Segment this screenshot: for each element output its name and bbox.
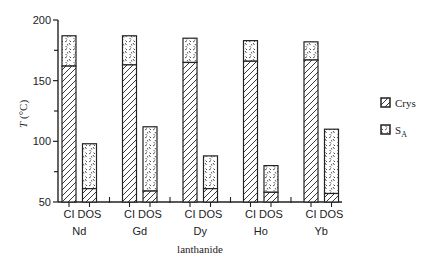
y-tick-label: 200 [33, 14, 51, 26]
crys-segment [244, 61, 258, 202]
subcategory-label: CI [124, 208, 135, 220]
sa-segment [62, 36, 76, 66]
bar-dy-ci [183, 38, 197, 202]
bar-nd-dos [83, 144, 97, 202]
subcategory-label: CI [245, 208, 256, 220]
bar-gd-dos [143, 127, 157, 202]
legend-swatch [381, 125, 390, 134]
subcategory-label: DOS [138, 208, 162, 220]
x-axis: CIDOSNdCIDOSGdCIDOSDyCIDOSHoCIDOSYb [58, 197, 343, 237]
sa-segment [244, 41, 258, 62]
crys-segment [123, 65, 137, 202]
crys-segment [183, 62, 197, 202]
sa-segment [123, 36, 137, 65]
bar-yb-ci [304, 42, 318, 202]
crys-segment [143, 191, 157, 202]
crys-segment [83, 189, 97, 202]
bar-dy-dos [204, 156, 218, 202]
bar-yb-dos [325, 129, 339, 202]
crys-segment [204, 189, 218, 202]
subcategory-label: DOS [259, 208, 283, 220]
sa-segment [325, 129, 339, 193]
crys-segment [62, 66, 76, 202]
sa-segment [83, 144, 97, 189]
subcategory-label: CI [64, 208, 75, 220]
legend-label: SA [395, 124, 407, 139]
bar-gd-ci [123, 36, 137, 202]
group-label: Dy [194, 225, 208, 237]
group-label: Nd [72, 225, 86, 237]
subcategory-label: CI [185, 208, 196, 220]
y-tick-label: 100 [33, 135, 51, 147]
legend: CrysSA [381, 97, 416, 139]
crys-segment [304, 60, 318, 202]
legend-swatch [381, 98, 390, 107]
bar-ho-ci [244, 41, 258, 202]
group-label: Yb [315, 225, 328, 237]
group-label: Ho [254, 225, 268, 237]
subcategory-label: DOS [78, 208, 102, 220]
bar-chart: 50100150200 CIDOSNdCIDOSGdCIDOSDyCIDOSHo… [0, 0, 434, 268]
crys-segment [264, 192, 278, 202]
legend-label: Crys [395, 97, 416, 109]
sa-segment [143, 127, 157, 191]
subcategory-label: DOS [199, 208, 223, 220]
subcategory-label: DOS [320, 208, 344, 220]
sa-segment [183, 38, 197, 62]
sa-segment [304, 42, 318, 60]
bar-nd-ci [62, 36, 76, 202]
crys-segment [325, 194, 339, 202]
sa-segment [264, 166, 278, 193]
y-tick-label: 50 [39, 196, 51, 208]
sa-segment [204, 156, 218, 189]
y-axis: 50100150200 [33, 14, 58, 208]
x-axis-label: lanthanide [177, 243, 223, 255]
y-tick-label: 150 [33, 75, 51, 87]
group-label: Gd [132, 225, 147, 237]
legend-item-crys: Crys [381, 97, 416, 109]
bar-ho-dos [264, 166, 278, 202]
bars [62, 36, 339, 202]
legend-item-sa: SA [381, 124, 407, 139]
y-axis-label: T(°C) [17, 100, 30, 129]
subcategory-label: CI [306, 208, 317, 220]
